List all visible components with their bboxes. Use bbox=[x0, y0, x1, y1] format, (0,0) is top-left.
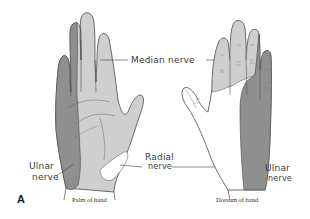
palm-caption: Palm of hand bbox=[72, 196, 107, 203]
palm-ulnar-label-line2: nerve bbox=[32, 172, 59, 182]
dorsum-ulnar-label-line1: Ulnar bbox=[265, 163, 290, 173]
radial-label-line2: nerve bbox=[148, 162, 172, 172]
dorsum-ulnar-label-line2: nerve bbox=[268, 174, 292, 184]
palm-ulnar-region bbox=[56, 23, 81, 190]
panel-letter: A bbox=[17, 193, 25, 205]
dorsum-hand bbox=[182, 21, 271, 201]
nerve-distribution-figure: Median nerve Ulnar nerve Radial nerve Ul… bbox=[0, 0, 310, 219]
hands-illustration bbox=[0, 0, 310, 219]
palm-hand bbox=[56, 13, 144, 200]
radial-label-line1: Radial bbox=[145, 152, 174, 162]
dorsum-caption: Dorsum of hand bbox=[216, 196, 258, 203]
palm-ulnar-label-line1: Ulnar bbox=[29, 161, 54, 171]
median-nerve-label: Median nerve bbox=[131, 55, 195, 65]
